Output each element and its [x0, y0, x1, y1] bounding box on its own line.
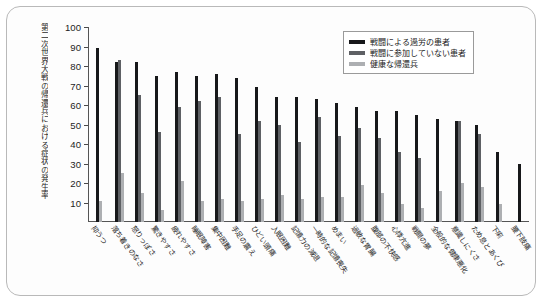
y-axis-tick-label: 30 [55, 158, 81, 169]
legend-label: 健康な帰還兵 [370, 58, 418, 69]
bar-group [89, 27, 109, 222]
bar [461, 183, 464, 222]
y-axis-tick-label: 10 [55, 197, 81, 208]
chart-legend: 戦闘による過労の患者戦闘に参加していない患者健康な帰還兵 [343, 31, 474, 74]
y-axis-tick-label: 100 [55, 22, 81, 33]
bar-group [269, 27, 289, 222]
bar [341, 197, 344, 222]
bar-group [229, 27, 249, 222]
legend-swatch [349, 40, 365, 44]
y-axis-tick-label: 60 [55, 100, 81, 111]
bar [281, 195, 284, 222]
bar [99, 201, 102, 222]
bar [158, 132, 161, 222]
bar-group [209, 27, 229, 222]
bar [161, 210, 164, 222]
bar-group [169, 27, 189, 222]
bar [361, 185, 364, 222]
y-axis-tick-label: 80 [55, 61, 81, 72]
bar [301, 199, 304, 222]
y-axis-tick-label: 70 [55, 80, 81, 91]
bar [499, 204, 502, 222]
bar-group [249, 27, 269, 222]
bar-group [489, 27, 509, 222]
bar [401, 204, 404, 222]
bar-group [509, 27, 529, 222]
bar [381, 193, 384, 222]
legend-label: 戦闘に参加していない患者 [370, 47, 466, 58]
chart-card: 第二次世界大戦の帰還兵における症状の発生率 100908070605040302… [6, 6, 536, 296]
bar [121, 173, 124, 222]
bar [439, 191, 442, 222]
bar-group [189, 27, 209, 222]
bar [321, 197, 324, 222]
chart-figure: 第二次世界大戦の帰還兵における症状の発生率 100908070605040302… [7, 7, 537, 297]
bar-group [129, 27, 149, 222]
x-axis-labels: 抑うつ落ち着きのなさ怒りっぽさ驚きやすさ疲れやすさ睡眠障害集中困難手足の震えひど… [7, 223, 537, 297]
bar-group [289, 27, 309, 222]
bar-group [149, 27, 169, 222]
bar-group [309, 27, 329, 222]
legend-label: 戦闘による過労の患者 [370, 36, 450, 47]
y-axis-title: 第二次世界大戦の帰還兵における症状の発生率 [28, 23, 48, 238]
bar [241, 201, 244, 222]
legend-item[interactable]: 戦闘に参加していない患者 [349, 47, 466, 58]
legend-item[interactable]: 健康な帰還兵 [349, 58, 466, 69]
x-axis-tick-label: めまい [330, 223, 350, 246]
x-axis-tick-label: 腰下肢痛 [510, 223, 534, 252]
bar [261, 199, 264, 222]
legend-swatch [349, 51, 365, 55]
bar [201, 201, 204, 222]
legend-swatch [349, 62, 365, 66]
bar [181, 181, 184, 222]
x-axis-tick-label: 下痢 [490, 223, 506, 240]
bar-group [109, 27, 129, 222]
y-axis-tick-label: 90 [55, 41, 81, 52]
bar [481, 187, 484, 222]
x-axis-tick-label: 抑うつ [90, 223, 110, 246]
bar [141, 193, 144, 222]
bar [421, 208, 424, 222]
bar [221, 199, 224, 222]
legend-item[interactable]: 戦闘による過労の患者 [349, 36, 466, 47]
bar [518, 164, 521, 223]
bar [96, 48, 99, 222]
y-axis-tick-label: 50 [55, 119, 81, 130]
y-axis-ticks: 100908070605040302010 [51, 25, 89, 227]
y-axis-tick-label: 20 [55, 178, 81, 189]
y-axis-tick-label: 40 [55, 139, 81, 150]
